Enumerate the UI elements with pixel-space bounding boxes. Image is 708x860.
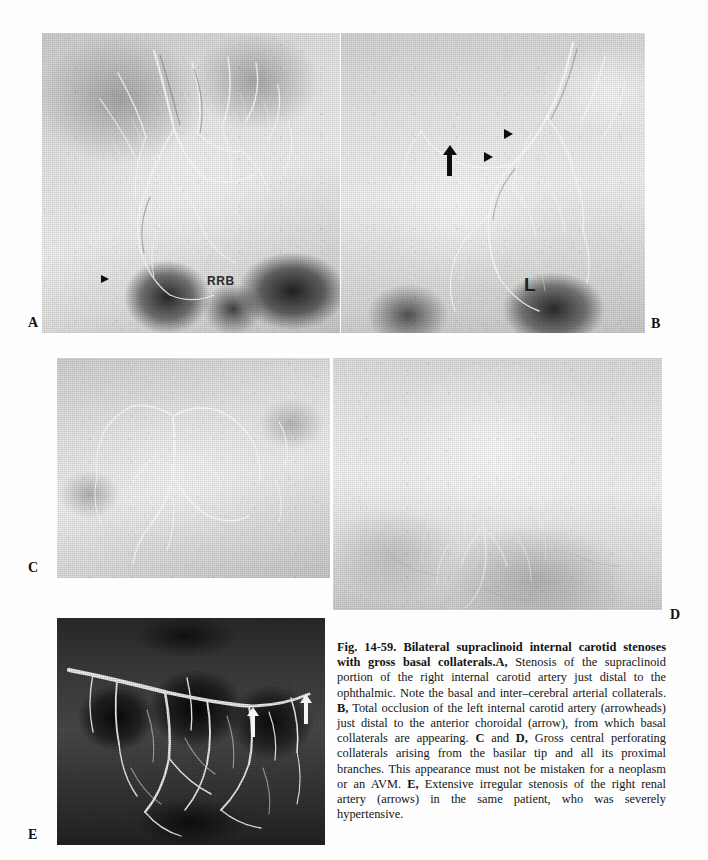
panel-c-image [57, 358, 330, 578]
panel-c-vessels [57, 358, 330, 578]
panel-c-label: C [28, 561, 38, 575]
panel-a-image [42, 33, 340, 333]
figure-number: Fig. 14-59. [337, 640, 396, 654]
caption-label-a: A, [496, 655, 508, 669]
caption-label-d: D, [516, 731, 528, 745]
panel-e-vessels [57, 618, 325, 845]
panel-b-image [341, 33, 645, 333]
figure-page: RRB A [0, 0, 708, 860]
panel-e-label: E [28, 828, 38, 842]
panel-d-label: D [670, 608, 680, 622]
caption-text-cd-join: and [484, 731, 516, 745]
panel-d-image [333, 358, 662, 610]
caption-label-e: E, [407, 777, 418, 791]
panel-a-vessels [42, 33, 340, 333]
panel-b-label: B [651, 317, 661, 331]
panel-b-vessels [341, 33, 645, 333]
caption-label-b: B, [337, 701, 348, 715]
panel-d-vessels [333, 358, 662, 610]
panel-e-image [57, 618, 325, 845]
panel-a-label: A [28, 316, 38, 330]
figure-caption: Fig. 14-59. Bilateral supraclinoid inter… [337, 640, 666, 822]
